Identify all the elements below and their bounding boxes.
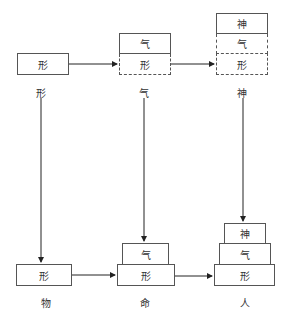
bottom-xing-box: 形 [16, 264, 72, 286]
bottom-qi-box-2: 气 [219, 243, 271, 265]
top-label-shen: 神 [237, 85, 247, 100]
top-shen-box: 神 [216, 13, 268, 34]
bottom-shen-box: 神 [224, 223, 266, 244]
bottom-xing-box-2: 形 [117, 264, 175, 286]
bottom-label-ren: 人 [240, 295, 250, 310]
top-xing-dashed-box-2: 形 [216, 53, 268, 75]
bottom-qi-box: 气 [122, 243, 169, 265]
top-label-qi: 气 [139, 85, 149, 100]
bottom-xing-box-3: 形 [214, 264, 275, 286]
top-xing-dashed-box: 形 [119, 54, 171, 75]
top-xing-box: 形 [17, 53, 69, 75]
top-qi-box: 气 [119, 33, 171, 54]
bottom-label-wu: 物 [41, 295, 51, 310]
top-qi-dashed-box: 气 [216, 34, 268, 54]
top-label-xing: 形 [36, 85, 46, 100]
bottom-label-ming: 命 [140, 295, 150, 310]
